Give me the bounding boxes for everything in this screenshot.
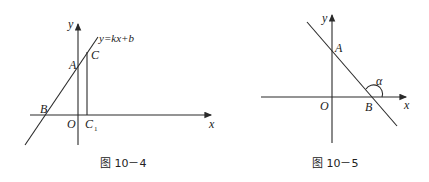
- origin-label: O: [320, 99, 329, 113]
- point-c1-subscript: 1: [94, 125, 98, 133]
- figure-caption: 图 10－5: [312, 157, 359, 170]
- point-c1-label: C: [85, 117, 94, 131]
- diagram-canvas: y x O y=kx+b A B C C 1 图 10－4 y x O A B …: [0, 0, 429, 182]
- point-a-label: A: [334, 41, 343, 55]
- x-axis-label: x: [403, 98, 410, 112]
- point-b-label: B: [365, 100, 373, 114]
- y-axis-label: y: [67, 17, 74, 31]
- figure-caption: 图 10－4: [100, 157, 147, 170]
- y-axis-label: y: [321, 11, 328, 25]
- point-b-label: B: [40, 102, 48, 116]
- origin-label: O: [67, 117, 76, 131]
- point-a-label: A: [68, 58, 77, 72]
- x-axis-label: x: [208, 117, 215, 131]
- figure-10-4: y x O y=kx+b A B C C 1 图 10－4: [25, 17, 215, 170]
- figure-10-5: y x O A B α 图 10－5: [261, 11, 410, 170]
- line-equation-label: y=kx+b: [98, 32, 134, 44]
- angle-alpha-label: α: [376, 74, 383, 88]
- point-c-label: C: [91, 48, 100, 62]
